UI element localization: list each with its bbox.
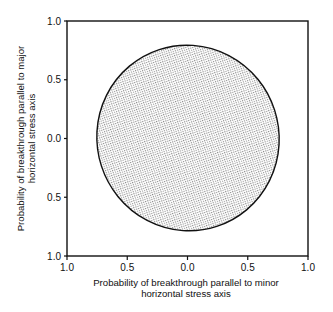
y-axis-label-line2: horizontal stress axis [26,94,37,184]
chart: 1.0 0.5 0.0 0.5 1.0 1.0 0.5 0.0 0.5 1.0 … [0,0,333,312]
x-axis-label-line1: Probability of breakthrough parallel to … [93,277,279,288]
y-tick-label: 0.0 [47,133,61,144]
y-tick-label: 0.5 [47,192,61,203]
y-tick-label: 0.5 [47,74,61,85]
x-tick-label: 0.5 [120,262,134,273]
x-tick-label: 0.5 [241,262,255,273]
x-tick-label: 1.0 [60,262,74,273]
y-tick-label: 1.0 [47,16,61,27]
y-tick-label: 1.0 [47,251,61,262]
x-tick-label: 1.0 [301,262,315,273]
x-tick-label: 0.0 [181,262,195,273]
y-axis-label-line1: Probability of breakthrough parallel to … [15,45,26,231]
probability-ellipse [73,21,304,254]
x-axis-label-line2: horizontal stress axis [141,288,231,299]
